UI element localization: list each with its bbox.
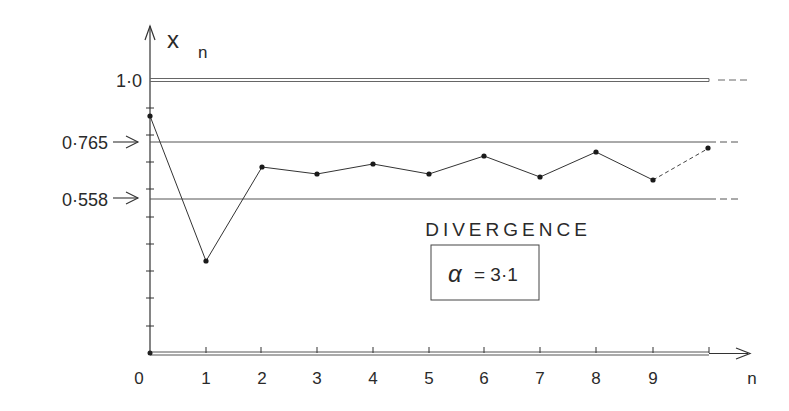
data-point bbox=[370, 161, 375, 166]
svg-text:1: 1 bbox=[201, 369, 210, 388]
data-point bbox=[147, 113, 152, 118]
x-axis-label: n bbox=[747, 369, 756, 388]
series-line-dashed bbox=[653, 148, 709, 180]
svg-text:0: 0 bbox=[134, 369, 143, 388]
data-point bbox=[705, 145, 710, 150]
chart-title: DIVERGENCE bbox=[425, 219, 591, 240]
svg-text:3: 3 bbox=[312, 369, 321, 388]
data-point bbox=[537, 174, 542, 179]
alpha-symbol: α bbox=[448, 260, 463, 287]
arrow-765-icon bbox=[113, 136, 138, 148]
svg-text:5: 5 bbox=[424, 369, 433, 388]
data-points bbox=[147, 113, 710, 263]
y-axis-label: x bbox=[167, 26, 179, 53]
data-point bbox=[203, 258, 208, 263]
ref-label-765: 0·765 bbox=[62, 133, 108, 153]
ref-label-1: 1·0 bbox=[116, 71, 142, 91]
data-point bbox=[314, 171, 319, 176]
svg-text:8: 8 bbox=[591, 369, 600, 388]
data-point bbox=[426, 171, 431, 176]
data-point bbox=[481, 153, 486, 158]
svg-text:7: 7 bbox=[535, 369, 544, 388]
origin-dot bbox=[148, 351, 153, 356]
data-point bbox=[650, 177, 655, 182]
ref-label-558: 0·558 bbox=[62, 190, 108, 210]
svg-text:2: 2 bbox=[257, 369, 266, 388]
svg-text:9: 9 bbox=[648, 369, 657, 388]
svg-text:4: 4 bbox=[368, 369, 377, 388]
arrow-558-icon bbox=[113, 192, 138, 204]
svg-text:6: 6 bbox=[479, 369, 488, 388]
chart-canvas: x n 1·0 0·765 0·558 0 1 2 3 4 5 6 7 8 9 … bbox=[0, 0, 789, 411]
alpha-value: = 3·1 bbox=[474, 264, 518, 285]
y-axis-label-sub: n bbox=[198, 43, 207, 62]
x-tick-labels: 0 1 2 3 4 5 6 7 8 9 bbox=[134, 369, 657, 388]
x-axis bbox=[150, 352, 748, 355]
data-point bbox=[259, 164, 264, 169]
reference-line-1 bbox=[150, 79, 747, 82]
data-point bbox=[593, 149, 598, 154]
